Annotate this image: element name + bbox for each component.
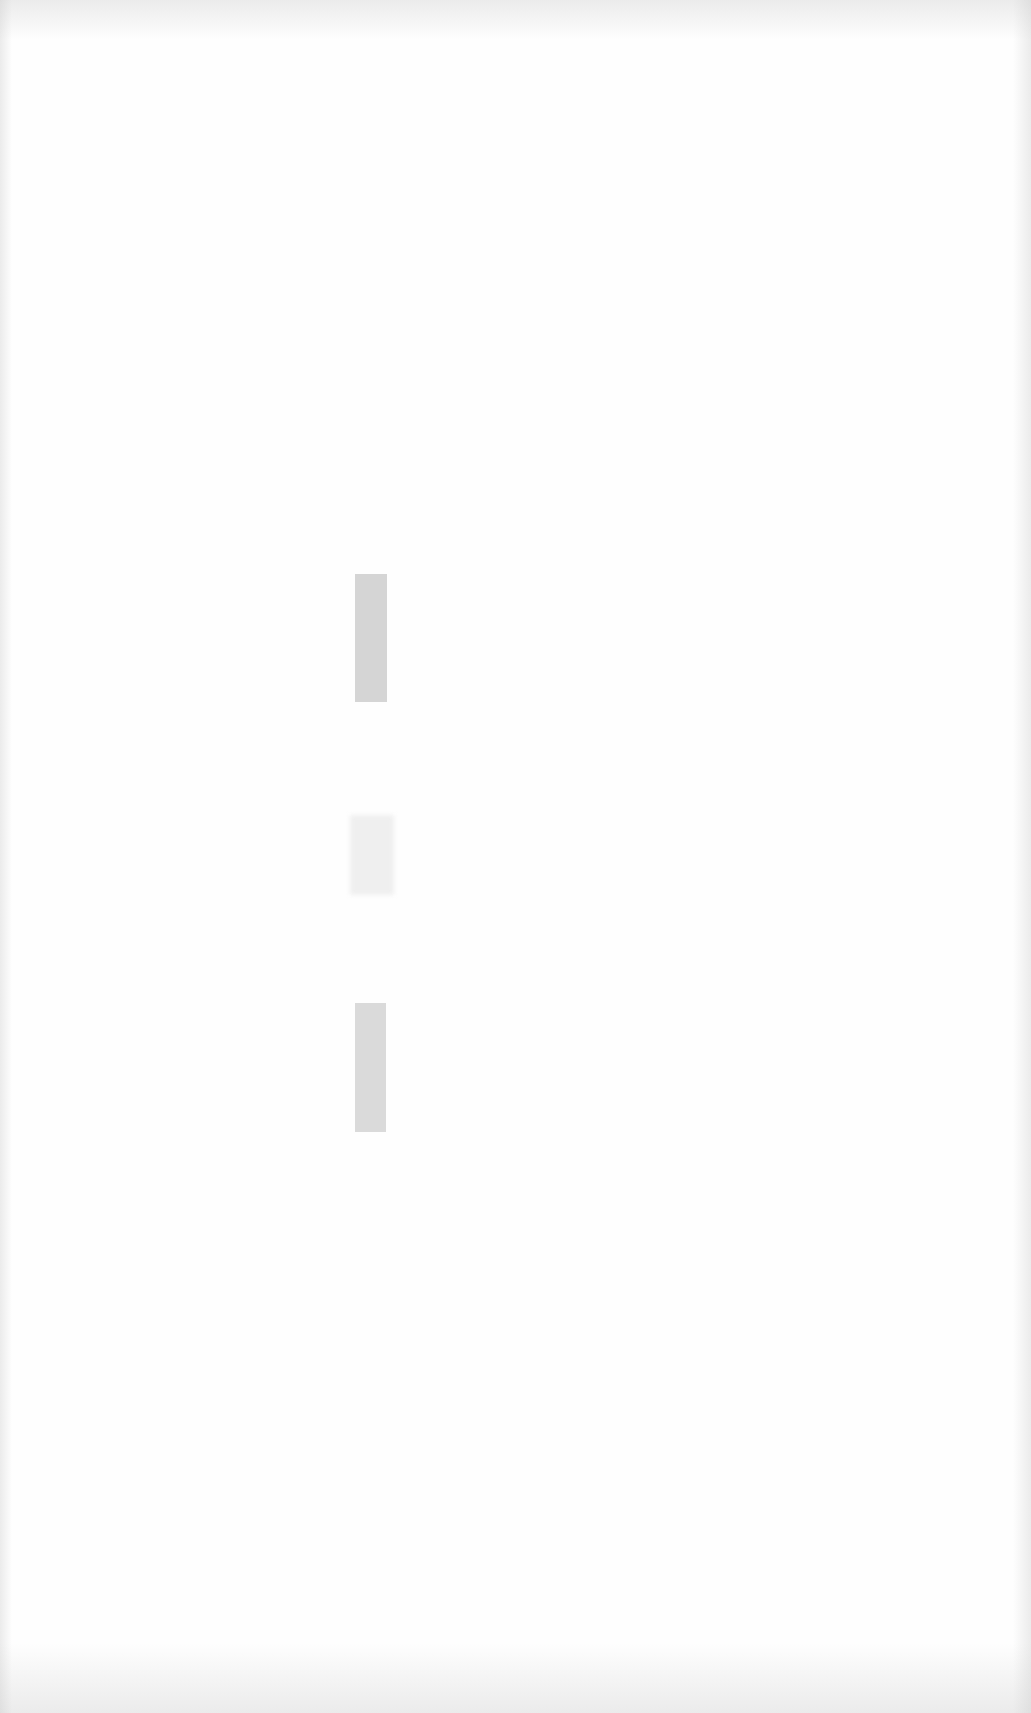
scanned-page (0, 0, 1031, 1713)
scan-mark-2 (350, 815, 394, 895)
scan-mark-1 (355, 574, 387, 702)
scan-mark-3 (355, 1003, 386, 1132)
